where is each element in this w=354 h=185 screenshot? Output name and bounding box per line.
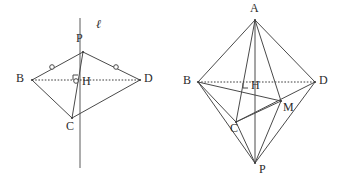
right-label-M: M: [283, 101, 294, 113]
geometry-diagram-svg: [0, 0, 354, 185]
right-vertex-P: [254, 162, 256, 164]
left-label-P: P: [76, 32, 83, 44]
left-tick-mark-PC: [74, 79, 79, 84]
left-label-B: B: [16, 72, 24, 84]
left-tick-mark-PD: [114, 65, 119, 70]
left-edge-BC: [32, 80, 72, 118]
left-edge-PD: [83, 52, 140, 80]
right-label-H: H: [251, 79, 260, 91]
right-edge-AD: [255, 20, 315, 82]
left-label-line-l: ℓ: [96, 18, 101, 30]
right-vertex-B: [197, 81, 199, 83]
left-edge-BP: [32, 52, 83, 80]
right-label-A: A: [250, 2, 259, 14]
left-label-D: D: [144, 72, 153, 84]
right-edge-BP: [198, 82, 255, 163]
right-edge-AC: [236, 20, 255, 122]
right-edge-AB: [198, 20, 255, 82]
figure-canvas: ℓ P B D C H A B D C P H M: [0, 0, 354, 185]
right-edge-CM: [236, 101, 281, 122]
left-vertex-P: [82, 51, 84, 53]
left-vertex-B: [31, 79, 33, 81]
right-label-C: C: [230, 122, 238, 134]
left-label-C: C: [66, 120, 74, 132]
right-vertex-D: [314, 81, 316, 83]
right-label-D: D: [319, 74, 328, 86]
right-edge-BC: [198, 82, 236, 122]
left-label-H: H: [82, 75, 91, 87]
right-edge-BM: [198, 82, 281, 101]
right-edge-DP: [255, 82, 315, 163]
right-label-B: B: [183, 74, 191, 86]
right-label-P: P: [259, 163, 266, 175]
right-vertex-M: [280, 100, 282, 102]
left-figure-group: [31, 18, 141, 168]
left-vertex-D: [139, 79, 141, 81]
right-right-angle-marker-H: [243, 83, 248, 88]
right-edge-CP: [236, 122, 255, 163]
right-vertex-A: [254, 19, 256, 21]
left-tick-mark-PB: [50, 65, 55, 70]
